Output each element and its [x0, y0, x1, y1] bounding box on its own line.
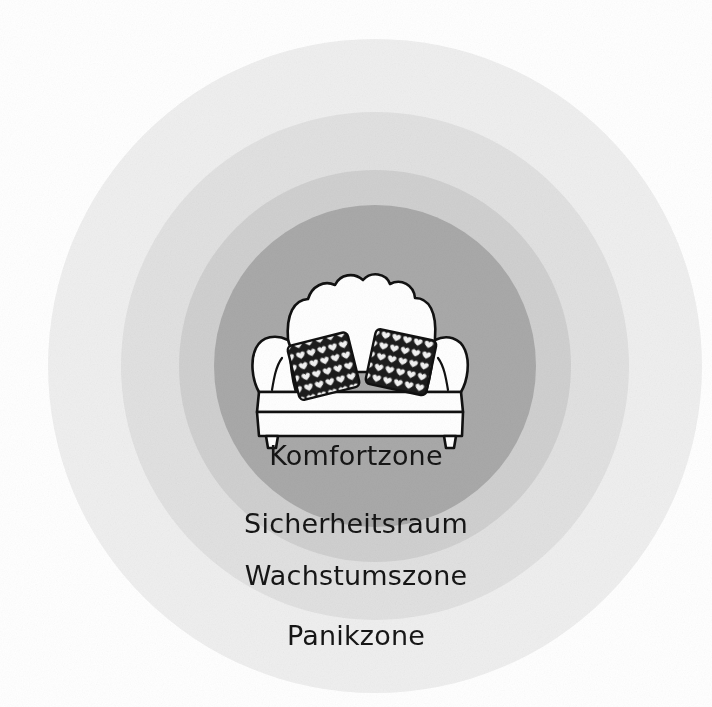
zone-label-panikzone: Panikzone [0, 620, 712, 651]
sofa-cushion-right [365, 328, 437, 396]
sofa-seat [257, 392, 463, 412]
zone-label-sicherheitsraum: Sicherheitsraum [0, 508, 712, 539]
zone-label-wachstumszone: Wachstumszone [0, 560, 712, 591]
zone-label-komfortzone: Komfortzone [0, 440, 712, 471]
sofa-base [257, 412, 463, 436]
sofa-icon [232, 268, 488, 454]
diagram-canvas: Komfortzone Sicherheitsraum Wachstumszon… [0, 0, 712, 707]
